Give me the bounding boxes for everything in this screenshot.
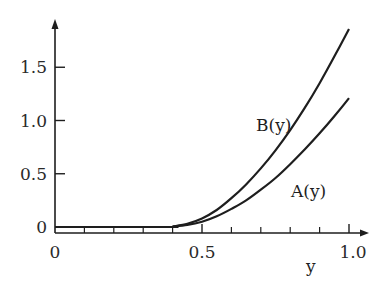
curve-label-a: A(y)	[290, 181, 326, 201]
y-tick-label: 1.5	[20, 57, 47, 77]
x-axis-arrow-icon	[360, 230, 369, 237]
curve-label-b: B(y)	[256, 115, 291, 135]
tick-labels: 00.51.01.500.51.0	[20, 57, 367, 262]
x-tick-label: 1.0	[339, 242, 366, 262]
y-tick-label: 0.5	[20, 164, 47, 184]
y-tick-label: 1.0	[20, 111, 47, 131]
curve-labels: B(y)A(y)	[256, 115, 326, 201]
y-axis-arrow-icon	[52, 19, 59, 29]
x-tick-label: 0.5	[188, 242, 215, 262]
y-tick-label: 0	[36, 217, 47, 237]
x-axis-label: y	[305, 256, 316, 276]
x-tick-label: 0	[50, 242, 61, 262]
chart: 00.51.01.500.51.0 B(y)A(y) y	[0, 0, 390, 295]
axes	[52, 19, 370, 237]
